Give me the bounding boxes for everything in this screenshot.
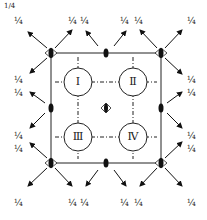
- fraction-label: ¼: [14, 89, 23, 98]
- fraction-label: ¼: [187, 145, 196, 154]
- fraction-label: ¼: [14, 76, 23, 85]
- fraction-label: ¼: [120, 17, 129, 26]
- fraction-label: ¼: [134, 199, 143, 208]
- fraction-label: ¼: [68, 17, 77, 26]
- fraction-label: ¼: [80, 17, 89, 26]
- fraction-label: ¼: [14, 132, 23, 141]
- fraction-label: ¼: [134, 17, 143, 26]
- region-iii: Ⅲ: [64, 130, 92, 143]
- fraction-label: ¼: [187, 199, 196, 208]
- fraction-label: ¼: [187, 132, 196, 141]
- fraction-label: ¼: [187, 89, 196, 98]
- region-i: Ⅰ: [64, 75, 92, 88]
- region-iv: Ⅳ: [119, 130, 147, 143]
- fraction-label: ¼: [187, 76, 196, 85]
- fraction-label: ¼: [120, 199, 129, 208]
- four-fold-symbols: [45, 48, 167, 168]
- fraction-label: ¼: [14, 199, 23, 208]
- fraction-label: ¼: [80, 199, 89, 208]
- symmetry-diagram: [0, 0, 207, 220]
- fraction-label: ¼: [14, 17, 23, 26]
- region-ii: Ⅱ: [119, 75, 147, 88]
- fraction-label: ¼: [14, 145, 23, 154]
- top-mark: 1/4: [4, 2, 15, 11]
- fraction-label: ¼: [68, 199, 77, 208]
- fraction-label: ¼: [187, 17, 196, 26]
